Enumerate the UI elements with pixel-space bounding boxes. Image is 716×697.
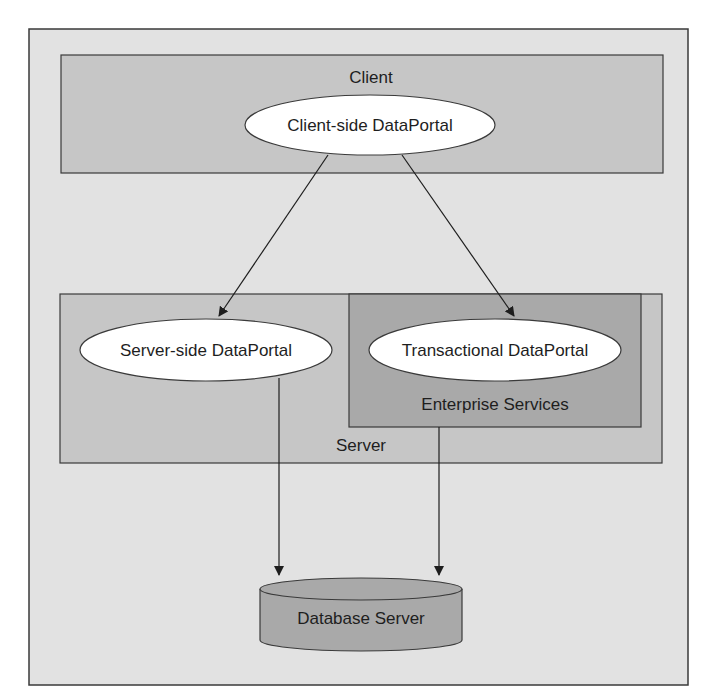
transactional-dataportal-label: Transactional DataPortal xyxy=(402,341,588,360)
client-dataportal-label: Client-side DataPortal xyxy=(287,116,452,135)
client-tier-label: Client xyxy=(349,68,393,87)
server-tier-label: Server xyxy=(336,436,386,455)
database-server-cylinder: Database Server xyxy=(260,578,462,651)
enterprise-services-label: Enterprise Services xyxy=(421,395,568,414)
client-tier: Client Client-side DataPortal xyxy=(61,55,663,173)
database-top xyxy=(260,578,462,600)
architecture-diagram: Client Client-side DataPortal Server Ent… xyxy=(0,0,716,697)
server-dataportal-label: Server-side DataPortal xyxy=(120,341,292,360)
server-tier: Server Enterprise Services Server-side D… xyxy=(60,294,662,463)
database-server-label: Database Server xyxy=(297,609,425,628)
